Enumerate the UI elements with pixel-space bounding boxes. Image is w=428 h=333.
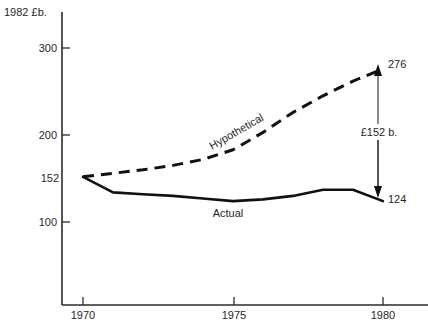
x-axis-ticks: 1970 1975 1980 bbox=[71, 297, 395, 321]
actual-end-value-label: 124 bbox=[388, 193, 406, 205]
hypothetical-series-label: Hypothetical bbox=[207, 111, 265, 152]
y-tick-label-200: 200 bbox=[39, 129, 57, 141]
series-line-hypothetical bbox=[83, 69, 383, 177]
y-axis-title: 1982 £b. bbox=[4, 6, 47, 18]
gap-value-label: £152 b. bbox=[361, 126, 398, 138]
chart-container: 1982 £b. 300 200 100 1970 1975 1980 152 … bbox=[0, 0, 428, 333]
y-tick-label-100: 100 bbox=[39, 216, 57, 228]
y-tick-label-300: 300 bbox=[39, 42, 57, 54]
gap-arrow-head-up bbox=[374, 64, 382, 76]
hypothetical-end-value-label: 276 bbox=[388, 58, 406, 70]
x-tick-label-1980: 1980 bbox=[371, 309, 395, 321]
x-tick-label-1970: 1970 bbox=[71, 309, 95, 321]
gap-arrow-head-down bbox=[374, 186, 382, 198]
line-chart: 1982 £b. 300 200 100 1970 1975 1980 152 … bbox=[0, 0, 428, 333]
series-line-actual bbox=[83, 177, 383, 201]
actual-series-label: Actual bbox=[213, 207, 244, 219]
y-axis-ticks: 300 200 100 bbox=[39, 42, 70, 228]
x-tick-label-1975: 1975 bbox=[222, 309, 246, 321]
start-value-label: 152 bbox=[41, 172, 59, 184]
